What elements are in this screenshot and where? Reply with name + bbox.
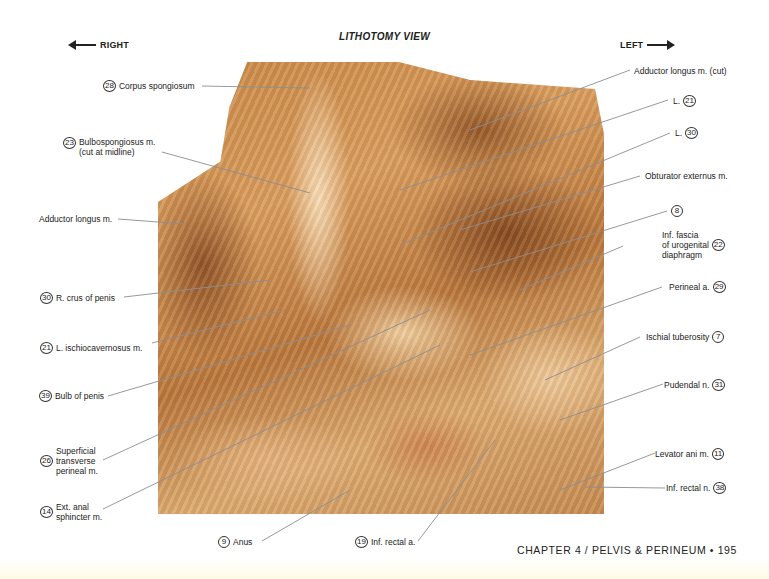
label-number: 29	[713, 281, 726, 293]
label-corpus-spongiosum: 28 Corpus spongiosum	[103, 80, 195, 92]
label-number: 8	[671, 205, 683, 217]
label-number: 23	[63, 137, 76, 149]
label-text: Ischial tuberosity	[646, 332, 709, 342]
label-ischial-tuberosity: Ischial tuberosity 7	[646, 331, 724, 343]
label-text-2: (cut at midline)	[79, 147, 156, 157]
label-text: Bulbospongiosus m.	[79, 137, 156, 147]
label-text-3: perineal m.	[56, 466, 98, 476]
label-text: Adductor longus m. (cut)	[634, 66, 727, 76]
label-text: Adductor longus m.	[39, 214, 112, 224]
label-text: Bulb of penis	[55, 391, 104, 401]
label-l-ischiocavernosus: 21 L. ischiocavernosus m.	[40, 342, 142, 354]
label-number: 28	[103, 80, 116, 92]
label-r-crus-of-penis: 30 R. crus of penis	[40, 292, 115, 304]
label-number: 26	[40, 455, 53, 467]
label-text: Superficial	[56, 446, 98, 456]
label-number: 21	[683, 95, 696, 107]
label-text: Inf. rectal n.	[666, 483, 710, 493]
label-text: Perineal a.	[669, 282, 710, 292]
label-text: L. ischiocavernosus m.	[56, 343, 142, 353]
label-perineal-artery: Perineal a. 29	[669, 281, 726, 293]
label-inf-rectal-nerve: Inf. rectal n. 38	[666, 482, 726, 494]
label-adductor-longus-cut: Adductor longus m. (cut)	[634, 66, 727, 76]
label-l-21: L. 21	[673, 95, 696, 107]
label-bulb-of-penis: 39 Bulb of penis	[39, 390, 104, 402]
label-text: L.	[673, 96, 680, 106]
label-pudendal-nerve: Pudendal n. 31	[664, 379, 725, 391]
label-text-3: diaphragm	[662, 250, 709, 260]
label-adductor-longus-right: Adductor longus m.	[39, 214, 112, 224]
label-inf-rectal-artery: 19 Inf. rectal a.	[355, 536, 415, 548]
label-text: Ext. anal	[56, 502, 102, 512]
label-text: Levator ani m.	[655, 449, 709, 459]
label-text: Obturator externus m.	[645, 171, 728, 181]
label-number: 11	[712, 448, 724, 460]
label-text-2: transverse	[56, 456, 98, 466]
label-ext-anal-sphincter: 14 Ext. anal sphincter m.	[40, 502, 102, 522]
label-number: 19	[355, 536, 368, 548]
running-head: CHAPTER 4 / PELVIS & PERINEUM • 195	[517, 544, 737, 556]
label-number: 9	[218, 536, 230, 548]
label-anus: 9 Anus	[218, 536, 252, 548]
label-text: Pudendal n.	[664, 380, 709, 390]
label-number: 7	[712, 331, 724, 343]
label-number: 14	[40, 506, 53, 518]
label-8: 8	[671, 205, 683, 217]
label-number: 30	[40, 292, 53, 304]
label-number: 39	[39, 390, 52, 402]
label-text: Inf. rectal a.	[371, 537, 415, 547]
label-text: Corpus spongiosum	[119, 81, 195, 91]
label-l-30: L. 30	[675, 127, 698, 139]
label-text-2: of urogenital	[662, 240, 709, 250]
label-bulbospongiosus: 23 Bulbospongiosus m. (cut at midline)	[63, 137, 155, 157]
label-number: 30	[685, 127, 698, 139]
label-obturator-externus: Obturator externus m.	[645, 171, 728, 181]
label-text: L.	[675, 128, 682, 138]
label-number: 22	[712, 239, 725, 251]
label-superficial-transverse-perineal: 26 Superficial transverse perineal m.	[40, 446, 98, 476]
label-text: R. crus of penis	[56, 293, 115, 303]
label-number: 21	[40, 342, 53, 354]
label-levator-ani: Levator ani m. 11	[655, 448, 724, 460]
label-text: Inf. fascia	[662, 230, 709, 240]
label-text-2: sphincter m.	[56, 512, 102, 522]
label-number: 31	[712, 379, 725, 391]
label-text: Anus	[233, 537, 252, 547]
label-number: 38	[713, 482, 726, 494]
label-inf-fascia-urogenital-diaphragm: Inf. fascia of urogenital diaphragm 22	[662, 230, 725, 260]
